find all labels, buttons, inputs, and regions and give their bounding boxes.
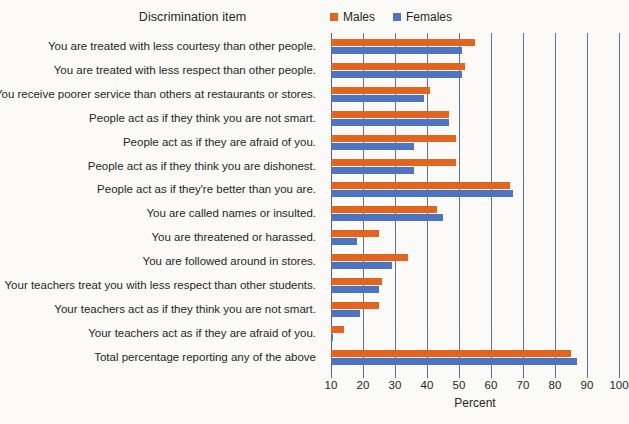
x-tick-mark-70	[523, 373, 524, 378]
plot-area	[331, 33, 619, 373]
bar-males	[331, 87, 430, 94]
category-label: You are treated with less courtesy than …	[48, 40, 316, 52]
x-tick-label-30: 30	[389, 379, 402, 391]
bar-females	[331, 47, 462, 54]
bar-males	[331, 278, 382, 285]
bar-females	[331, 71, 462, 78]
bar-males	[331, 254, 408, 261]
bar-females	[331, 190, 513, 197]
x-tick-mark-40	[427, 373, 428, 378]
legend-swatch-males	[330, 13, 338, 21]
x-tick-mark-10	[331, 373, 332, 378]
x-tick-mark-50	[459, 373, 460, 378]
chart-title: Discrimination item	[60, 10, 325, 24]
legend-label-females: Females	[406, 11, 452, 23]
bar-males	[331, 182, 510, 189]
bar-females	[331, 167, 414, 174]
bar-females	[331, 310, 360, 317]
x-tick-label-80: 80	[549, 379, 562, 391]
category-label: You are called names or insulted.	[146, 207, 316, 219]
x-tick-label-50: 50	[453, 379, 466, 391]
bar-males	[331, 350, 571, 357]
category-label: Your teachers treat you with less respec…	[4, 279, 316, 291]
x-tick-mark-80	[555, 373, 556, 378]
bar-females	[331, 262, 392, 269]
category-labels: You are treated with less courtesy than …	[0, 33, 325, 373]
x-tick-mark-90	[587, 373, 588, 378]
category-label: People act as if they think you are not …	[89, 112, 316, 124]
bar-females	[331, 238, 357, 245]
legend-entry-males: Males	[330, 11, 375, 23]
x-tick-label-40: 40	[421, 379, 434, 391]
category-label: Total percentage reporting any of the ab…	[94, 351, 316, 363]
x-tick-label-20: 20	[357, 379, 370, 391]
bar-females	[331, 358, 577, 365]
legend-label-males: Males	[343, 11, 375, 23]
category-label: People act as if they are afraid of you.	[123, 136, 316, 148]
category-label: Your teachers act as if they are afraid …	[88, 327, 316, 339]
x-tick-mark-100	[619, 373, 620, 378]
category-label: People act as if they're better than you…	[97, 183, 316, 195]
legend-entry-females: Females	[393, 11, 452, 23]
bar-males	[331, 230, 379, 237]
bar-males	[331, 302, 379, 309]
x-tick-mark-30	[395, 373, 396, 378]
bar-females	[331, 214, 443, 221]
bar-females	[331, 286, 379, 293]
category-label: You are threatened or harassed.	[151, 231, 316, 243]
category-label: Your teachers act as if they think you a…	[54, 303, 316, 315]
x-tick-label-10: 10	[325, 379, 338, 391]
bar-females	[331, 95, 424, 102]
x-tick-mark-20	[363, 373, 364, 378]
bar-males	[331, 39, 475, 46]
x-tick-label-90: 90	[581, 379, 594, 391]
category-label: People act as if they think you are dish…	[88, 160, 316, 172]
chart-header: Discrimination item Males Females	[0, 8, 625, 30]
bar-females	[331, 119, 449, 126]
x-tick-mark-60	[491, 373, 492, 378]
bar-males	[331, 206, 437, 213]
x-tick-label-100: 100	[609, 379, 628, 391]
chart-legend: Males Females	[330, 11, 452, 23]
legend-swatch-females	[393, 13, 401, 21]
x-tick-label-60: 60	[485, 379, 498, 391]
bar-males	[331, 159, 456, 166]
x-axis-title: Percent	[331, 396, 619, 410]
category-label: You receive poorer service than others a…	[0, 88, 316, 100]
bar-males	[331, 63, 465, 70]
bar-females	[331, 334, 333, 341]
bar-males	[331, 111, 449, 118]
bar-males	[331, 326, 344, 333]
bar-females	[331, 143, 414, 150]
bar-males	[331, 135, 456, 142]
bar-series-group	[331, 33, 619, 373]
x-tick-label-70: 70	[517, 379, 530, 391]
gridline-100	[619, 33, 620, 373]
category-label: You are followed around in stores.	[143, 255, 316, 267]
category-label: You are treated with less respect than o…	[54, 64, 316, 76]
